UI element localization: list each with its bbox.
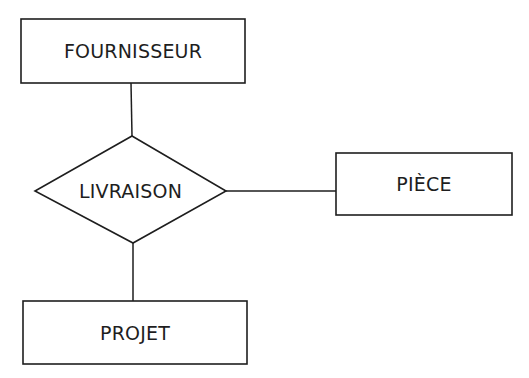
entity-projet-label: PROJET: [23, 301, 247, 364]
relationship-livraison-label: LIVRAISON: [35, 166, 226, 216]
entity-piece-label: PIÈCE: [336, 153, 512, 215]
entity-fournisseur-label: FOURNISSEUR: [21, 19, 245, 83]
link-fournisseur-livraison: [131, 83, 132, 136]
